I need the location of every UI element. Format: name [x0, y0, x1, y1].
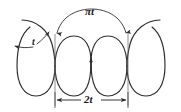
dimension-label-t: t — [32, 37, 35, 47]
dimension-label-pi-t: πt — [85, 6, 94, 17]
figure-container: πt t 2t — [0, 0, 181, 112]
dimension-t-arrow-upper — [37, 32, 49, 44]
dimension-t-arrow-lower — [15, 46, 33, 48]
dimension-label-2t: 2t — [84, 94, 93, 105]
